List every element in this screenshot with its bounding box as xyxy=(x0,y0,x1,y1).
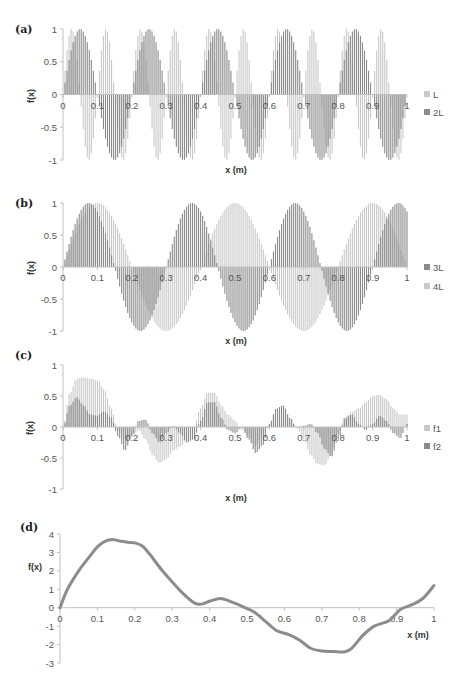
x-tick-label: 0.8 xyxy=(353,613,366,624)
y-tick-label: -1 xyxy=(49,484,57,495)
panel-label: (c) xyxy=(15,349,32,362)
y-tick-label: 3 xyxy=(49,547,54,558)
x-tick-label: 0.8 xyxy=(332,272,345,283)
x-tick-label: 1 xyxy=(431,613,436,624)
legend: f1 f2 xyxy=(424,423,441,452)
legend-label-f2: f2 xyxy=(433,441,441,452)
axes: 10.50-0.5-100.10.20.30.40.50.60.70.80.91 xyxy=(41,360,410,495)
y-tick-label: 0 xyxy=(49,602,54,613)
y-tick-label: 1 xyxy=(49,584,54,595)
legend-label-3l: 3L xyxy=(433,262,444,273)
x-tick-label: 0 xyxy=(60,272,65,283)
x-axis-title: x (m) xyxy=(225,336,247,346)
x-tick-label: 0.7 xyxy=(297,432,310,443)
x-tick-label: 0.3 xyxy=(160,272,173,283)
y-tick-label: 0 xyxy=(52,422,57,433)
x-tick-label: 0 xyxy=(60,432,65,443)
y-tick-label: -0.5 xyxy=(41,122,57,133)
y-tick-label: -2 xyxy=(46,639,54,650)
x-tick-label: 0.9 xyxy=(366,432,379,443)
x-tick-label: 0.7 xyxy=(297,100,310,111)
x-tick-label: 0.7 xyxy=(315,613,328,624)
x-tick-label: 1 xyxy=(404,100,409,111)
x-tick-label: 0.8 xyxy=(332,432,345,443)
y-axis-title: f(x) xyxy=(28,562,42,572)
x-tick-label: 0.8 xyxy=(332,100,345,111)
y-tick-label: 4 xyxy=(49,529,54,540)
x-tick-label: 0.6 xyxy=(263,100,276,111)
y-tick-label: 1 xyxy=(52,198,57,209)
legend-label-l: L xyxy=(433,89,438,100)
legend-swatch-f2 xyxy=(424,443,430,449)
x-tick-label: 0.1 xyxy=(91,432,104,443)
y-axis-title: f(x) xyxy=(26,261,36,275)
x-tick-label: 0.3 xyxy=(160,100,173,111)
panel-c: (c) 10.50-0.5-100.10.20.30.40.50.60.70.8… xyxy=(15,349,441,503)
y-tick-label: 0 xyxy=(52,262,57,273)
x-tick-label: 0.2 xyxy=(125,432,138,443)
x-tick-label: 0.4 xyxy=(194,432,207,443)
figure: (a) 10.50-0.5-100.10.20.30.40.50.60.70.8… xyxy=(0,0,464,683)
x-tick-label: 0.5 xyxy=(228,272,241,283)
x-tick-label: 0.3 xyxy=(160,432,173,443)
x-tick-label: 0.6 xyxy=(278,613,291,624)
y-tick-label: -3 xyxy=(46,658,54,669)
x-tick-label: 1 xyxy=(404,272,409,283)
x-axis-title: x (m) xyxy=(225,493,247,503)
x-tick-label: 0.2 xyxy=(128,613,141,624)
y-tick-label: -0.5 xyxy=(41,453,57,464)
x-axis-title: x (m) xyxy=(225,165,247,175)
panel-a: (a) 10.50-0.5-100.10.20.30.40.50.60.70.8… xyxy=(15,23,444,175)
legend-swatch-3l xyxy=(424,264,430,270)
y-tick-label: 0.5 xyxy=(44,230,57,241)
legend-label-f1: f1 xyxy=(433,423,441,434)
x-tick-label: 0.4 xyxy=(203,613,216,624)
y-tick-label: -0.5 xyxy=(41,294,57,305)
x-tick-label: 0.5 xyxy=(240,613,253,624)
legend-swatch-f1 xyxy=(424,425,430,431)
y-tick-label: 2 xyxy=(49,565,54,576)
y-tick-label: -1 xyxy=(49,326,57,337)
x-tick-label: 0.4 xyxy=(194,100,207,111)
y-tick-label: -1 xyxy=(46,621,54,632)
legend: L 2L xyxy=(424,89,444,118)
x-tick-label: 0.2 xyxy=(125,100,138,111)
panel-d: (d) 43210-1-2-300.10.20.30.40.50.60.70.8… xyxy=(20,521,437,669)
legend-swatch-2l xyxy=(424,109,430,115)
x-tick-label: 0.3 xyxy=(166,613,179,624)
panel-label: (b) xyxy=(15,197,33,210)
y-tick-label: 1 xyxy=(52,360,57,371)
x-tick-label: 0.1 xyxy=(91,100,104,111)
x-tick-label: 0.5 xyxy=(228,100,241,111)
x-tick-label: 0.2 xyxy=(125,272,138,283)
x-tick-label: 0.7 xyxy=(297,272,310,283)
legend-swatch-l xyxy=(424,91,430,97)
x-tick-label: 0 xyxy=(57,613,62,624)
legend-swatch-4l xyxy=(424,283,430,289)
x-tick-label: 0 xyxy=(60,100,65,111)
y-tick-label: 0.5 xyxy=(44,391,57,402)
x-tick-label: 0.6 xyxy=(263,272,276,283)
legend-label-4l: 4L xyxy=(433,281,444,292)
line-series xyxy=(60,540,434,653)
x-tick-label: 0.4 xyxy=(194,272,207,283)
x-axis-title: x (m) xyxy=(407,630,429,640)
x-tick-label: 0.6 xyxy=(263,432,276,443)
y-axis-title: f(x) xyxy=(26,89,36,103)
panel-b: (b) 10.50-0.5-100.10.20.30.40.50.60.70.8… xyxy=(15,197,444,346)
x-tick-label: 0.9 xyxy=(366,100,379,111)
x-tick-label: 0.5 xyxy=(228,432,241,443)
x-tick-label: 0.9 xyxy=(366,272,379,283)
legend: 3L 4L xyxy=(424,262,444,292)
y-tick-label: 0.5 xyxy=(44,56,57,67)
panel-label: (d) xyxy=(20,521,38,534)
x-tick-label: 0.1 xyxy=(91,272,104,283)
bar-series xyxy=(63,377,407,465)
axes: 43210-1-2-300.10.20.30.40.50.60.70.80.91 xyxy=(46,529,437,669)
y-tick-label: 1 xyxy=(52,24,57,35)
y-tick-label: -1 xyxy=(49,155,57,166)
y-axis-title: f(x) xyxy=(25,421,35,435)
legend-label-2l: 2L xyxy=(433,107,444,118)
x-tick-label: 0.1 xyxy=(91,613,104,624)
y-tick-label: 0 xyxy=(52,89,57,100)
